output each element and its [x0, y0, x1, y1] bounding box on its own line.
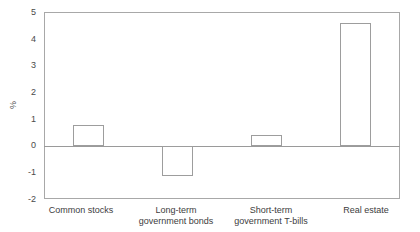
bar-short-term-government-t-bills	[251, 135, 282, 146]
y-tick-label-4: 4	[8, 35, 36, 44]
bar-chart: % 5 4 3 2 1 0 -1 -2 Common stocks Long-t…	[0, 0, 420, 232]
y-tick-label-5: 5	[8, 8, 36, 17]
y-tick-label-3: 3	[8, 61, 36, 70]
y-tick-label-neg1: -1	[8, 168, 36, 177]
zero-baseline	[44, 146, 400, 147]
y-tick-label-0: 0	[8, 141, 36, 150]
bar-common-stocks	[73, 125, 104, 146]
bar-long-term-government-bonds	[162, 146, 193, 177]
y-tick-label-1: 1	[8, 115, 36, 124]
bar-real-estate	[340, 23, 371, 146]
x-category-label-line1: Real estate	[306, 205, 420, 216]
y-tick-label-2: 2	[8, 88, 36, 97]
x-category-label-real-estate: Real estate	[306, 205, 420, 216]
y-tick-label-neg2: -2	[8, 195, 36, 204]
x-category-label-line2: government T-bills	[211, 216, 331, 227]
